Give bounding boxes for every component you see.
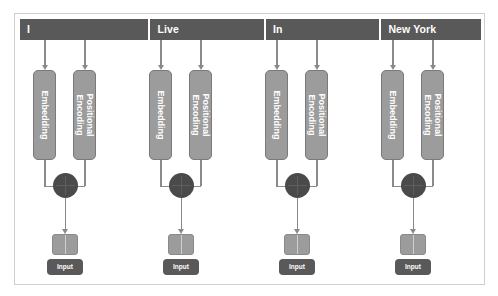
- arrow-token-to-positional-3: [432, 40, 434, 66]
- input-vector-box-0[interactable]: [52, 234, 78, 255]
- connector-positional-down-0: [84, 160, 86, 186]
- input-chip-2[interactable]: Input: [279, 259, 315, 275]
- positional-encoding-block-1[interactable]: Positional Encoding: [189, 70, 212, 160]
- arrow-token-to-positional-1: [200, 40, 202, 66]
- input-vector-half-left-2: [285, 235, 298, 254]
- input-vector-box-2[interactable]: [284, 234, 310, 255]
- arrow-token-to-positional-2: [316, 40, 318, 66]
- positional-encoding-block-label-2: Positional Encoding: [307, 93, 327, 136]
- input-vector-half-left-0: [53, 235, 66, 254]
- token-segment-1[interactable]: Live: [150, 19, 264, 40]
- token-label-2: In: [273, 24, 283, 35]
- input-chip-label-0: Input: [57, 264, 73, 271]
- embedding-block-2[interactable]: Embedding: [265, 70, 288, 160]
- positional-encoding-block-2[interactable]: Positional Encoding: [305, 70, 328, 160]
- arrow-sum-to-vector-2: [297, 198, 299, 230]
- positional-encoding-block-label-3: Positional Encoding: [423, 93, 443, 136]
- arrow-sum-to-vector-3: [413, 198, 415, 230]
- embedding-block-1[interactable]: Embedding: [149, 70, 172, 160]
- input-vector-box-3[interactable]: [400, 234, 426, 255]
- sum-node-cross-vertical-0: [65, 176, 66, 195]
- input-vector-half-left-3: [401, 235, 414, 254]
- positional-encoding-block-3[interactable]: Positional Encoding: [421, 70, 444, 160]
- sum-node-cross-vertical-3: [413, 176, 414, 195]
- input-chip-label-3: Input: [405, 264, 421, 271]
- input-vector-half-right-2: [298, 235, 310, 254]
- connector-embedding-down-3: [392, 160, 394, 186]
- input-chip-label-1: Input: [173, 264, 189, 271]
- connector-embedding-down-2: [276, 160, 278, 186]
- token-header-bar: I Live In New York: [20, 19, 481, 40]
- connector-embedding-down-0: [44, 160, 46, 186]
- input-vector-half-right-0: [66, 235, 78, 254]
- connector-embedding-down-1: [160, 160, 162, 186]
- token-segment-2[interactable]: In: [266, 19, 380, 40]
- input-chip-0[interactable]: Input: [47, 259, 83, 275]
- token-column-3: Embedding Positional Encoding Input: [368, 40, 483, 284]
- sum-node-0[interactable]: [53, 173, 78, 198]
- embedding-block-3[interactable]: Embedding: [381, 70, 404, 160]
- input-chip-1[interactable]: Input: [163, 259, 199, 275]
- token-column-0: Embedding Positional Encoding Input: [20, 40, 135, 284]
- token-label-1: Live: [157, 24, 178, 35]
- token-label-0: I: [27, 24, 30, 35]
- token-segment-0[interactable]: I: [20, 19, 148, 40]
- sum-node-cross-vertical-2: [297, 176, 298, 195]
- input-chip-label-2: Input: [289, 264, 305, 271]
- arrow-sum-to-vector-1: [181, 198, 183, 230]
- token-segment-3[interactable]: New York: [381, 19, 481, 40]
- arrow-token-to-embedding-3: [392, 40, 394, 66]
- input-vector-half-left-1: [169, 235, 182, 254]
- input-chip-3[interactable]: Input: [395, 259, 431, 275]
- sum-node-1[interactable]: [169, 173, 194, 198]
- sum-node-cross-vertical-1: [181, 176, 182, 195]
- embedding-block-0[interactable]: Embedding: [33, 70, 56, 160]
- diagram-frame: I Live In New York Embedding Positional …: [14, 13, 485, 285]
- arrow-token-to-positional-0: [84, 40, 86, 66]
- arrow-token-to-embedding-0: [44, 40, 46, 66]
- positional-encoding-block-label-0: Positional Encoding: [75, 93, 95, 136]
- token-label-3: New York: [388, 24, 436, 35]
- embedding-block-label-0: Embedding: [40, 91, 50, 140]
- token-column-1: Embedding Positional Encoding Input: [136, 40, 251, 284]
- connector-positional-down-3: [432, 160, 434, 186]
- connector-positional-down-1: [200, 160, 202, 186]
- embedding-block-label-2: Embedding: [272, 91, 282, 140]
- positional-encoding-block-0[interactable]: Positional Encoding: [73, 70, 96, 160]
- sum-node-3[interactable]: [401, 173, 426, 198]
- arrow-token-to-embedding-2: [276, 40, 278, 66]
- input-vector-half-right-1: [182, 235, 194, 254]
- positional-encoding-block-label-1: Positional Encoding: [191, 93, 211, 136]
- embedding-block-label-3: Embedding: [388, 91, 398, 140]
- token-column-2: Embedding Positional Encoding Input: [252, 40, 367, 284]
- input-vector-half-right-3: [414, 235, 426, 254]
- input-vector-box-1[interactable]: [168, 234, 194, 255]
- sum-node-2[interactable]: [285, 173, 310, 198]
- embedding-block-label-1: Embedding: [156, 91, 166, 140]
- connector-positional-down-2: [316, 160, 318, 186]
- arrow-token-to-embedding-1: [160, 40, 162, 66]
- arrow-sum-to-vector-0: [65, 198, 67, 230]
